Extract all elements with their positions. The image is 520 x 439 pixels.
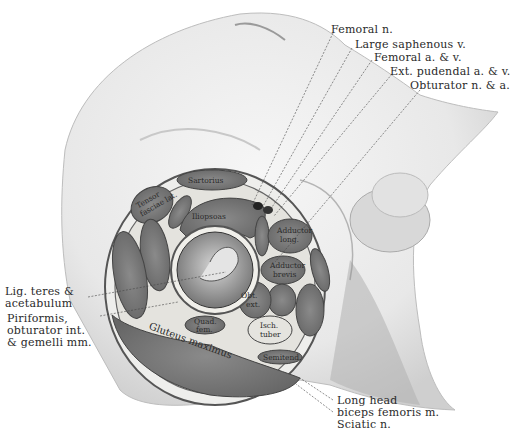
callout-acetabulum: acetabulum: [5, 298, 72, 310]
callout-ext-pudendal: Ext. pudendal a. & v.: [390, 66, 510, 78]
label-adductor-brevis: Adductor: [269, 261, 306, 270]
muscle-pectineus: [255, 216, 269, 256]
callout-sciatic-nerve: Sciatic n.: [337, 419, 391, 431]
label-obt-ext-2: ext.: [246, 300, 260, 309]
callout-large-saphenous-vein: Large saphenous v.: [355, 39, 466, 51]
label-adductor-longus: Adductor: [276, 226, 313, 235]
label-adductor-longus-2: long.: [280, 235, 299, 244]
femoral-vessel: [263, 206, 273, 214]
label-quad-fem-2: fem.: [196, 325, 213, 334]
muscle-adductor-magnus: [296, 284, 324, 336]
scrotum-shape: [372, 173, 428, 217]
label-iliopsoas: Iliopsoas: [192, 212, 226, 221]
callout-femoral-nerve: Femoral n.: [331, 24, 393, 36]
callout-obturator: Obturator n. & a.: [410, 80, 510, 92]
label-isch-tuber-2: tuber: [260, 330, 281, 339]
callout-femoral-artery-vein: Femoral a. & v.: [374, 52, 462, 64]
label-isch-tuber: Isch.: [260, 321, 278, 330]
muscle-adductor-min: [268, 284, 296, 316]
callout-gemelli: & gemelli mm.: [7, 337, 92, 349]
label-obt-ext: Obt.: [241, 291, 257, 300]
label-adductor-brevis-2: brevis: [273, 270, 296, 279]
femoral-vessel: [253, 202, 263, 210]
label-semitend: Semitend.: [263, 353, 302, 362]
label-sartorius: Sartorius: [188, 176, 224, 185]
